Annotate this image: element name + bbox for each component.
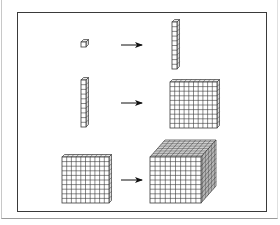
flat-icon: [170, 80, 220, 129]
thousand-cube-icon: [150, 140, 216, 203]
rod-icon: [172, 20, 180, 70]
base-ten-diagram: [0, 0, 280, 225]
rod-icon: [81, 78, 89, 128]
flat-icon: [62, 155, 112, 204]
unit-cube-icon: [81, 40, 89, 48]
